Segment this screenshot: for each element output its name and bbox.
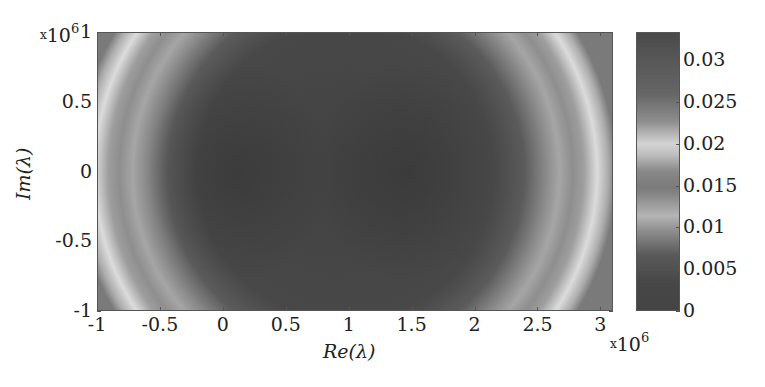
x-tick-label: 0.5: [256, 315, 316, 334]
heatmap-image: [98, 33, 613, 311]
x-tick-mark: [412, 307, 413, 311]
y-tick-mark: [609, 311, 613, 312]
x-axis-label: Re(λ): [323, 340, 375, 362]
colorbar-tick-mark: [676, 144, 680, 145]
x-tick-mark: [412, 32, 413, 36]
x-tick-mark: [97, 307, 98, 311]
colorbar-tick-label: 0.005: [683, 259, 737, 278]
colorbar-tick-label: 0.01: [683, 217, 725, 236]
x-tick-mark: [349, 307, 350, 311]
colorbar: [636, 32, 680, 311]
x-tick-mark: [223, 32, 224, 36]
x-tick-mark: [600, 32, 601, 36]
x-tick-mark: [537, 32, 538, 36]
multiplier-x: x: [610, 337, 617, 351]
x-tick-mark: [223, 307, 224, 311]
x-tick-label: -0.5: [130, 315, 190, 334]
heatmap-plot-area: [97, 32, 613, 311]
colorbar-tick-mark: [676, 227, 680, 228]
colorbar-tick-mark: [676, 186, 680, 187]
multiplier-base: 10: [617, 333, 641, 355]
colorbar-tick-label: 0.025: [683, 92, 737, 111]
multiplier-exp: 6: [641, 330, 649, 345]
colorbar-tick-mark: [676, 60, 680, 61]
colorbar-tick-label: 0.015: [683, 176, 737, 195]
x-tick-label: 0: [193, 315, 253, 334]
y-tick-mark: [97, 311, 101, 312]
colorbar-tick-label: 0: [683, 301, 695, 320]
x-tick-mark: [160, 32, 161, 36]
x-tick-mark: [600, 307, 601, 311]
x-tick-label: 1: [319, 315, 379, 334]
x-tick-mark: [349, 32, 350, 36]
x-tick-label: -1: [67, 315, 127, 334]
colorbar-tick-label: 0.02: [683, 134, 725, 153]
x-tick-mark: [475, 307, 476, 311]
x-tick-mark: [537, 307, 538, 311]
y-tick-label: 0: [32, 162, 92, 181]
x-tick-label: 2.5: [507, 315, 567, 334]
y-tick-label: -0.5: [32, 231, 92, 250]
x-tick-mark: [97, 32, 98, 36]
x-axis-multiplier: x106: [610, 330, 649, 355]
x-tick-mark: [160, 307, 161, 311]
x-tick-mark: [475, 32, 476, 36]
colorbar-tick-mark: [676, 102, 680, 103]
y-axis-label: Im(λ): [12, 148, 34, 200]
x-tick-label: 2: [445, 315, 505, 334]
colorbar-tick-mark: [676, 311, 680, 312]
x-tick-label: 1.5: [382, 315, 442, 334]
x-tick-mark: [286, 307, 287, 311]
y-tick-label: 0.5: [32, 92, 92, 111]
colorbar-tick-label: 0.03: [683, 50, 725, 69]
y-tick-label: 1: [32, 22, 92, 41]
colorbar-tick-mark: [676, 269, 680, 270]
x-tick-mark: [286, 32, 287, 36]
